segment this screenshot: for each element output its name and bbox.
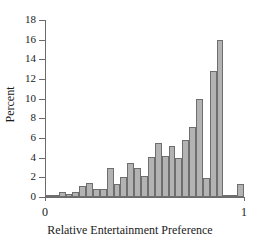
histogram-bar [223, 195, 230, 197]
histogram-chart: Percent 024681012141618 01 Relative Ente… [0, 0, 260, 244]
histogram-bar [86, 183, 93, 197]
plot-area [45, 20, 244, 197]
x-axis-tick-label: 1 [234, 206, 254, 218]
y-axis-tick-label: 12 [2, 73, 36, 84]
histogram-bar [72, 192, 79, 197]
histogram-bar [162, 156, 169, 197]
y-axis-tick-labels: 024681012141618 [0, 0, 38, 244]
x-axis-tick [244, 197, 245, 201]
histogram-bar [196, 99, 203, 197]
histogram-bar [182, 140, 189, 197]
x-axis-title: Relative Entertainment Preference [0, 224, 260, 237]
x-axis-tick-label: 0 [35, 206, 55, 218]
histogram-bar [59, 192, 66, 197]
histogram-bar [141, 176, 148, 197]
histogram-bar [148, 157, 155, 197]
histogram-bar [175, 158, 182, 197]
histogram-bar [79, 186, 86, 197]
y-axis-tick-label: 6 [2, 132, 36, 143]
y-axis-tick-label: 4 [2, 152, 36, 163]
histogram-bar [107, 168, 114, 198]
y-axis-tick-label: 0 [2, 191, 36, 202]
histogram-bar [120, 177, 127, 197]
histogram-bar [217, 40, 224, 197]
y-axis-tick-label: 10 [2, 93, 36, 104]
histogram-bar [169, 146, 176, 197]
y-axis-tick-label: 16 [2, 34, 36, 45]
histogram-bar [127, 163, 134, 197]
histogram-bar [52, 195, 59, 197]
histogram-bar [93, 189, 100, 197]
histogram-bar [66, 194, 73, 197]
y-axis-tick-label: 18 [2, 14, 36, 25]
histogram-bar [210, 71, 217, 197]
histogram-bar [114, 184, 121, 197]
histogram-bar [45, 195, 52, 197]
y-axis-tick-label: 8 [2, 112, 36, 123]
histogram-bar [134, 168, 141, 197]
x-axis-tick [45, 197, 46, 201]
y-axis-tick-label: 2 [2, 171, 36, 182]
histogram-bar [230, 195, 237, 197]
histogram-bar [203, 178, 210, 197]
histogram-bar [100, 189, 107, 197]
histogram-bar [237, 184, 244, 197]
histogram-bar [155, 143, 162, 197]
x-axis-line [45, 197, 245, 198]
y-axis-tick-label: 14 [2, 53, 36, 64]
histogram-bar [189, 127, 196, 197]
